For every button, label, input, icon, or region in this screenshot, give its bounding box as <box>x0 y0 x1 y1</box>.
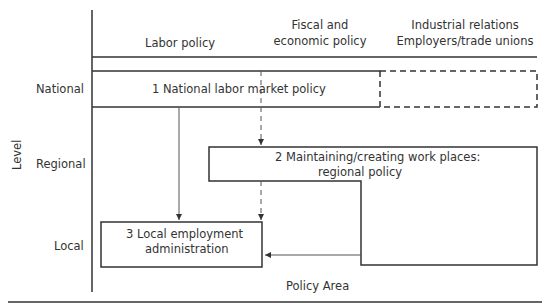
axis-title-level: Level <box>10 140 24 170</box>
x-axis-title-policy-area: Policy Area <box>286 279 349 293</box>
column-label-industrial-line2: Employers/trade unions <box>385 34 545 48</box>
box2-label-line2: regional policy <box>300 165 420 179</box>
level-label-local: Local <box>54 239 84 253</box>
box1-label: 1 National labor market policy <box>152 82 326 96</box>
column-label-fiscal-line1: Fiscal and <box>270 18 370 32</box>
column-label-industrial-line1: Industrial relations <box>385 18 545 32</box>
dashed-extension-box <box>380 71 537 107</box>
box3-label-line2: administration <box>145 242 229 256</box>
level-label-regional: Regional <box>36 157 86 171</box>
box2-label-line1: 2 Maintaining/creating work places: <box>275 150 480 164</box>
level-label-national: National <box>36 82 84 96</box>
column-label-labor-policy: Labor policy <box>130 36 230 50</box>
column-label-fiscal-line2: economic policy <box>260 34 380 48</box>
box3-label-line1: 3 Local employment <box>126 227 243 241</box>
